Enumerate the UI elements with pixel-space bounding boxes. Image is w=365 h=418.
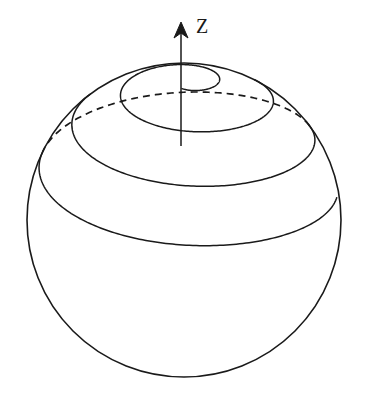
spiral-visible-segment [120,65,273,132]
sphere-spiral-figure [0,0,365,418]
spiral-visible-segments [39,65,337,246]
sphere-outline [27,63,341,377]
z-axis-label: Z [196,16,208,36]
spiral-visible-segment [72,94,315,186]
figure-container: Z [0,0,365,418]
spiral-visible-segment [39,151,337,246]
